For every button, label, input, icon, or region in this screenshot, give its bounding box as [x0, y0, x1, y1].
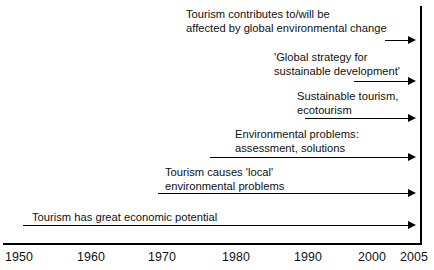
arrow-shaft [305, 118, 410, 119]
arrow-shaft [158, 193, 410, 194]
timeline-row-label-environmental-problems-assessment-solutions: Environmental problems: assessment, solu… [235, 128, 359, 155]
arrow-head-icon [408, 153, 416, 161]
timeline-arrow-sustainable-tourism-ecotourism [305, 114, 416, 123]
timeline-arrow-global-environmental-change [385, 36, 416, 45]
timeline-arrow-global-strategy-sustainable-development [354, 77, 416, 86]
axis-year-2005: 2005 [400, 250, 428, 265]
arrow-head-icon [408, 77, 416, 85]
arrow-shaft [210, 157, 410, 158]
axis-year-1960: 1960 [77, 250, 105, 265]
axis-year-1990: 1990 [294, 250, 322, 265]
arrow-head-icon [408, 36, 416, 44]
timeline-row-label-sustainable-tourism-ecotourism: Sustainable tourism, ecotourism [297, 90, 398, 117]
time-axis-line [3, 243, 422, 245]
axis-year-2000: 2000 [358, 250, 386, 265]
timeline-arrow-tourism-causes-local-environmental-problems [158, 189, 416, 198]
timeline-row-label-global-environmental-change: Tourism contributes to/will be affected … [186, 8, 387, 35]
arrow-shaft [23, 225, 410, 226]
arrow-shaft [385, 40, 410, 41]
axis-year-1970: 1970 [148, 250, 176, 265]
axis-year-1950: 1950 [5, 250, 33, 265]
arrow-head-icon [408, 189, 416, 197]
right-boundary-rule [420, 6, 422, 244]
timeline-arrow-environmental-problems-assessment-solutions [210, 153, 416, 162]
arrow-head-icon [408, 114, 416, 122]
arrow-head-icon [408, 221, 416, 229]
timeline-diagram: Tourism contributes to/will be affected … [0, 0, 434, 270]
timeline-arrow-tourism-has-great-economic-potential [23, 221, 416, 230]
timeline-row-label-global-strategy-sustainable-development: 'Global strategy for sustainable develop… [274, 51, 400, 78]
axis-year-1980: 1980 [222, 250, 250, 265]
arrow-shaft [354, 81, 410, 82]
